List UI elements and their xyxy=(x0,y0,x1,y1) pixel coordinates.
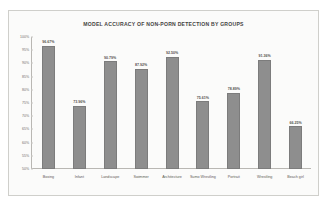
bar-slot[interactable]: 91.36% xyxy=(249,37,280,169)
bar[interactable] xyxy=(196,101,209,169)
x-axis-category-label: Beach girl xyxy=(280,175,311,179)
x-axis-category-label: Sumo Wrestling xyxy=(187,175,218,179)
plot-area: 100%95%90%85%80%75%70%65%60%55%50% 96.67… xyxy=(31,37,311,169)
y-axis-tick-label: 80% xyxy=(22,88,29,92)
y-axis-tick-label: 50% xyxy=(22,167,29,171)
x-axis-category-label: Portrait xyxy=(218,175,249,179)
bar-value-label: 78.89% xyxy=(228,87,240,91)
x-axis-category-label: Wrestling xyxy=(249,175,280,179)
y-axis-tick-label: 65% xyxy=(22,127,29,131)
bar-value-label: 66.25% xyxy=(289,121,301,125)
y-axis-tick-label: 70% xyxy=(22,114,29,118)
bar-series: 96.67%73.96%90.79%87.92%92.50%75.61%78.8… xyxy=(33,37,311,169)
bar[interactable] xyxy=(227,93,240,169)
bar-slot[interactable]: 75.61% xyxy=(187,37,218,169)
y-axis-tick-label: 85% xyxy=(22,75,29,79)
bar-value-label: 73.96% xyxy=(73,100,85,104)
bar-slot[interactable]: 87.92% xyxy=(126,37,157,169)
y-axis-tick-label: 90% xyxy=(22,61,29,65)
bar-slot[interactable]: 90.79% xyxy=(95,37,126,169)
bar-value-label: 92.50% xyxy=(166,51,178,55)
chart-container: MODEL ACCURACY OF NON-PORN DETECTION BY … xyxy=(8,10,319,196)
bar[interactable] xyxy=(166,57,179,169)
chart-title: MODEL ACCURACY OF NON-PORN DETECTION BY … xyxy=(9,21,318,27)
y-axis-tick-label: 60% xyxy=(22,141,29,145)
bar[interactable] xyxy=(289,126,302,169)
bar-slot[interactable]: 78.89% xyxy=(218,37,249,169)
bar[interactable] xyxy=(42,46,55,169)
bar[interactable] xyxy=(73,106,86,169)
bar-slot[interactable]: 96.67% xyxy=(33,37,64,169)
bar-value-label: 90.79% xyxy=(104,56,116,60)
x-axis-category-label: Swimmer xyxy=(126,175,157,179)
bar[interactable] xyxy=(135,69,148,169)
bar-slot[interactable]: 92.50% xyxy=(157,37,188,169)
bar-value-label: 91.36% xyxy=(259,54,271,58)
x-axis-category-label: Infant xyxy=(64,175,95,179)
y-axis-tick-label: 100% xyxy=(20,35,29,39)
x-axis-category-label: Landscape xyxy=(95,175,126,179)
bar-value-label: 96.67% xyxy=(42,40,54,44)
bar[interactable] xyxy=(104,61,117,169)
bar-value-label: 75.61% xyxy=(197,96,209,100)
x-axis-category-label: Boxing xyxy=(33,175,64,179)
y-axis-tick-label: 75% xyxy=(22,101,29,105)
bar-slot[interactable]: 66.25% xyxy=(280,37,311,169)
x-axis-labels: BoxingInfantLandscapeSwimmerArchitecture… xyxy=(33,175,311,187)
y-axis-tick-label: 55% xyxy=(22,154,29,158)
bar-slot[interactable]: 73.96% xyxy=(64,37,95,169)
bar[interactable] xyxy=(258,60,271,169)
x-axis-category-label: Architecture xyxy=(157,175,188,179)
y-axis-tick-label: 95% xyxy=(22,48,29,52)
bar-value-label: 87.92% xyxy=(135,63,147,67)
